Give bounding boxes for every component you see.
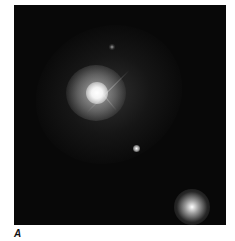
astronomical-image: [14, 5, 226, 225]
galaxy-core: [86, 82, 108, 104]
small-star: [133, 145, 140, 152]
faint-star: [109, 44, 115, 50]
panel-label: A: [14, 228, 21, 239]
compact-galaxy: [174, 189, 210, 225]
